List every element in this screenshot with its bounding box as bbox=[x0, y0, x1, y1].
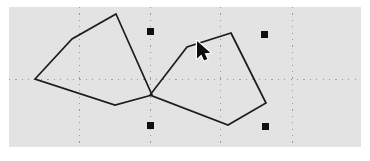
selection-handles[interactable] bbox=[147, 28, 269, 130]
canvas-vector-surface[interactable] bbox=[9, 7, 361, 147]
handle-bottom-right[interactable] bbox=[262, 123, 269, 130]
handle-bottom-left[interactable] bbox=[147, 122, 154, 129]
mouse-pointer bbox=[197, 41, 210, 61]
handle-top-left[interactable] bbox=[147, 28, 154, 35]
handle-top-right[interactable] bbox=[261, 31, 268, 38]
drawing-canvas[interactable] bbox=[9, 7, 361, 147]
snap-guide-lines bbox=[9, 7, 361, 147]
drawing-app-window bbox=[0, 0, 370, 161]
polygon-left[interactable] bbox=[35, 14, 152, 105]
